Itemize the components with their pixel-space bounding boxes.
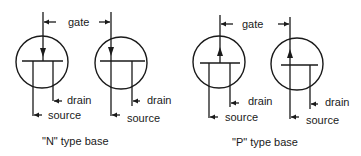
drain-label: drain	[67, 94, 91, 106]
source-pointer-arrow-icon	[291, 115, 296, 120]
gate-pointer-arrow-icon	[221, 22, 226, 27]
drain-pointer-arrow-icon	[133, 99, 138, 104]
gate-label: gate	[68, 16, 89, 28]
gate-arrow-down-icon	[40, 48, 46, 57]
p-type-symbol-1: gate drain source	[193, 15, 272, 123]
p-type-symbol-2: drain source	[271, 17, 349, 126]
p-type-caption: "P" type base	[232, 136, 298, 148]
gate-pointer-arrow-icon	[105, 20, 110, 25]
transistor-envelope-circle	[193, 36, 245, 88]
gate-arrow-up-icon	[287, 49, 293, 58]
source-label: source	[48, 109, 81, 121]
drain-label: drain	[147, 94, 171, 106]
drain-pointer-arrow-icon	[231, 101, 236, 106]
transistor-envelope-circle	[95, 37, 147, 89]
gate-label: gate	[242, 18, 263, 30]
transistor-envelope-circle	[271, 38, 323, 90]
n-type-caption: "N" type base	[42, 135, 109, 147]
source-label: source	[225, 111, 258, 123]
source-pointer-arrow-icon	[112, 113, 117, 118]
gate-pointer-arrow-icon	[284, 22, 289, 27]
drain-label: drain	[248, 95, 272, 107]
drain-label: drain	[325, 96, 349, 108]
drain-pointer-arrow-icon	[311, 102, 316, 107]
gate-arrow-down-icon	[108, 47, 114, 56]
source-label: source	[306, 114, 339, 126]
transistor-symbols-diagram: gate drain source drain source	[0, 0, 361, 156]
n-type-symbol-1: gate drain source	[16, 12, 91, 121]
source-label: source	[127, 112, 160, 124]
transistor-envelope-circle	[16, 36, 68, 88]
source-pointer-arrow-icon	[210, 115, 215, 120]
gate-arrow-up-icon	[217, 47, 223, 56]
drain-pointer-arrow-icon	[54, 99, 59, 104]
source-pointer-arrow-icon	[34, 113, 39, 118]
gate-pointer-arrow-icon	[44, 20, 49, 25]
n-type-symbol-2: drain source	[95, 12, 171, 124]
